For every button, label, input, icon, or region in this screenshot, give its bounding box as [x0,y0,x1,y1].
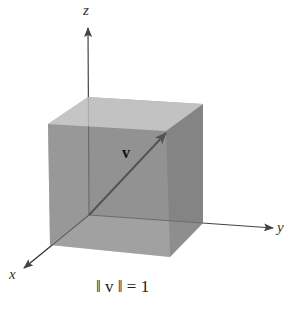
y-axis-label: y [277,219,284,236]
cube-front-face [48,124,170,257]
norm-caption: ‖ v ‖ = 1 [96,277,149,297]
z-axis-label: z [83,2,89,19]
unit-cube-diagram: z y x v ‖ v ‖ = 1 [0,0,301,313]
x-axis-label: x [9,266,16,283]
diagram-canvas [0,0,301,313]
vector-v-label: v [122,144,130,162]
